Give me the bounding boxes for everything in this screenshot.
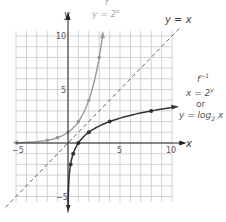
f-equation-label: y = 2x	[91, 7, 120, 19]
finv-equation2-label: y = log2 x	[178, 110, 224, 122]
tick-x-5: 5	[117, 146, 122, 155]
exp-point	[97, 56, 101, 60]
function-inverse-chart: −5 5 10 10 5 −5 x y f y = 2x y = x f−1 x…	[0, 0, 226, 222]
log-point	[69, 162, 73, 166]
finv-equation1-label: x = 2y	[185, 86, 214, 98]
finv-or-label: or	[196, 99, 206, 109]
tick-y-5: 5	[61, 86, 66, 95]
log-point	[149, 109, 153, 113]
identity-line	[6, 27, 181, 207]
f-name-label: f	[105, 0, 110, 7]
log-point	[108, 120, 112, 124]
identity-line-label: y = x	[164, 14, 192, 25]
finv-name-label: f−1	[197, 72, 209, 84]
labels: −5 5 10 10 5 −5 x y f y = 2x y = x f−1 x…	[12, 0, 224, 202]
log-point	[71, 152, 75, 156]
tick-y-10: 10	[56, 32, 66, 41]
x-axis-label: x	[185, 138, 192, 149]
exp-point	[87, 98, 91, 102]
exp-point	[77, 120, 81, 124]
y-axis-label: y	[63, 9, 71, 20]
tick-y-neg5: −5	[56, 193, 68, 202]
exp-point	[45, 139, 49, 143]
tick-x-neg5: −5	[12, 146, 24, 155]
log-point	[87, 130, 91, 134]
exp-point	[56, 136, 60, 140]
exp-arrowhead-icon	[100, 31, 105, 38]
curves	[6, 27, 181, 211]
exp-curve	[14, 34, 103, 143]
tick-x-10: 10	[166, 146, 176, 155]
